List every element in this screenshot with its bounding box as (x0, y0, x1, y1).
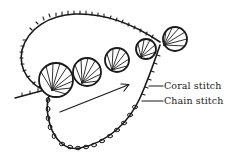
shell-1 (39, 63, 73, 97)
shell-3 (105, 48, 129, 72)
shell-2 (73, 58, 101, 86)
shell-4 (136, 39, 156, 59)
chain-stitch-loop (47, 45, 160, 148)
label-coral-stitch: Coral stitch (164, 80, 221, 91)
shell-5 (163, 27, 187, 51)
label-chain-stitch: Chain stitch (164, 95, 223, 106)
